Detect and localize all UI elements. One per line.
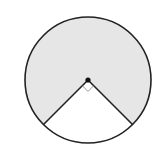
center-point <box>85 77 90 82</box>
circle-diagram <box>0 0 156 153</box>
right-angle-marker <box>82 86 93 92</box>
shaded-sector <box>25 17 151 125</box>
